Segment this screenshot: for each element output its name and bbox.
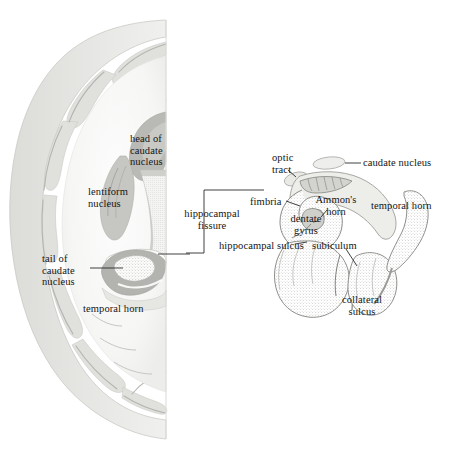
label-caudate-nucleus: caudate nucleus [363,157,431,169]
label-dentate-gyrus: dentate gyrus [284,213,328,236]
label-collateral-sulcus: collateral sulcus [334,294,390,317]
caudate-nucleus-shape [312,155,345,170]
label-temporal-horn-left: temporal horn [83,303,144,315]
label-temporal-horn-right: temporal horn [371,200,432,212]
label-optic-tract: optic tract [272,152,294,175]
label-lentiform-nucleus: lentiform nucleus [88,186,128,209]
anatomy-figure: head of caudate nucleus lentiform nucleu… [0,0,468,456]
hippocampal-formation-detail [274,155,428,317]
label-hippocampal-sulcus: hippocampal sulcus [219,240,304,252]
label-tail-of-caudate-nucleus: tail of caudate nucleus [42,253,75,288]
label-fimbria: fimbria [250,196,282,208]
coronal-hemisphere-section [10,20,167,439]
label-head-of-caudate-nucleus: head of caudate nucleus [130,133,163,168]
label-subiculum: subiculum [312,240,357,252]
label-hippocampal-fissure: hippocampal fissure [176,208,248,231]
